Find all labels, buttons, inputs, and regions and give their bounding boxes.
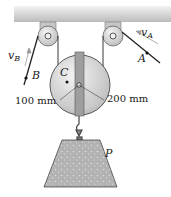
point-B-label: B (32, 70, 40, 81)
velocity-B-label: vB (8, 50, 20, 63)
right-pulley (103, 22, 123, 46)
velocity-A-label: vA (141, 27, 153, 40)
point-B (24, 76, 27, 79)
center-pulley (50, 52, 110, 116)
mass-P-label: P (105, 148, 112, 159)
point-C (66, 81, 69, 84)
radius-100-label: 100 mm (15, 96, 56, 106)
point-A-label: A (138, 53, 146, 64)
point-C-label: C (60, 67, 68, 78)
left-pulley (38, 22, 58, 46)
ceiling-beam (14, 6, 171, 22)
radius-200-label: 200 mm (107, 94, 148, 104)
hook (76, 116, 82, 140)
